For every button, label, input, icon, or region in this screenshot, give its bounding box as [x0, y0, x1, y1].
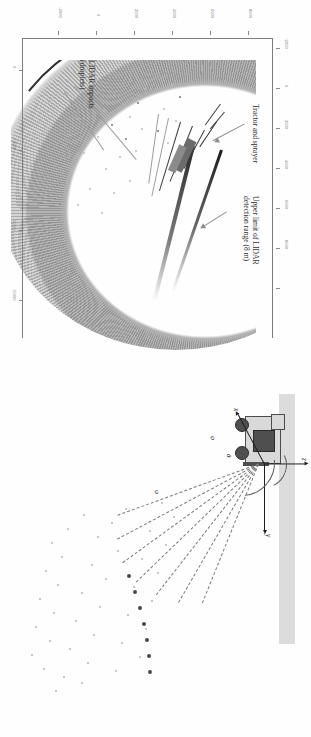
axis-x-ticklabel: 0 [284, 85, 289, 87]
axis-y-ticklabel: 8000 [248, 9, 253, 18]
axis-x-tick [276, 168, 280, 169]
axis-y-ticklabel: -2000 [58, 7, 63, 18]
axis-label-y: y [264, 534, 273, 537]
machine-tank [271, 414, 285, 430]
figure-root: -2000 0 2000 4000 6000 8000 8000 6000 40… [0, 0, 311, 737]
annotation-upper-limit-line1: Upper limit of LIDAR [250, 196, 259, 265]
axis-y-line [23, 38, 273, 39]
droplet-scatter [41, 70, 191, 240]
axis-label-x: x [232, 408, 241, 411]
plot-area-a: -2000 0 2000 4000 6000 8000 8000 6000 40… [0, 0, 311, 372]
annotation-impacts-line2: (droplets) [78, 60, 87, 109]
spray-droplet-cloud [23, 492, 193, 702]
panel-lidar-3d-plot: -2000 0 2000 4000 6000 8000 8000 6000 40… [0, 0, 311, 372]
axis-y-ticklabel: 0 [96, 14, 101, 16]
axis-x-tick [276, 208, 280, 209]
axis-label-z: z [300, 458, 309, 461]
axis-y-tick [210, 31, 211, 35]
axis-y-ticklabel: 4000 [172, 9, 177, 18]
axis-y-ticklabel: 6000 [210, 9, 215, 18]
annotation-impacts: LIDAR impacts (droplets) [78, 60, 95, 109]
annotation-tractor-line1: Tractor and sprayer [250, 104, 259, 163]
axis-x-tick [276, 128, 280, 129]
axis-x-ticklabel: 4000 [284, 160, 289, 169]
angle-label-phi: φ [209, 436, 217, 440]
axis-x-tick [276, 288, 280, 289]
axis-y-ticklabel: 2000 [134, 9, 139, 18]
axis-x-ticklabel: -2000 [284, 38, 289, 49]
axis-x-ticklabel: 8000 [284, 240, 289, 249]
axis-y-tick [248, 31, 249, 35]
axis-x-tick [276, 88, 280, 89]
panel-sprayer-schematic: y x z θ φ ψ [0, 372, 311, 737]
annotation-upper-limit: Upper limit of LIDAR detection range (8 … [242, 196, 259, 265]
plot-area-b: y x z θ φ ψ [0, 372, 311, 737]
axis-x-tick [276, 48, 280, 49]
annotation-impacts-line1: LIDAR impacts [86, 60, 95, 109]
axis-x-ticklabel: 2000 [284, 120, 289, 129]
axis-y-tick [58, 31, 59, 35]
annotation-tractor: Tractor and sprayer [250, 104, 259, 163]
axis-x-ticklabel: 6000 [284, 200, 289, 209]
axis-x-line [272, 38, 273, 338]
axis-y-tick [96, 31, 97, 35]
axis-y-tick [172, 31, 173, 35]
axis-x-tick [276, 248, 280, 249]
annotation-upper-limit-line2: detection range (8 m) [242, 196, 251, 265]
axis-y-tick [134, 31, 135, 35]
arrowhead-z [304, 461, 308, 465]
